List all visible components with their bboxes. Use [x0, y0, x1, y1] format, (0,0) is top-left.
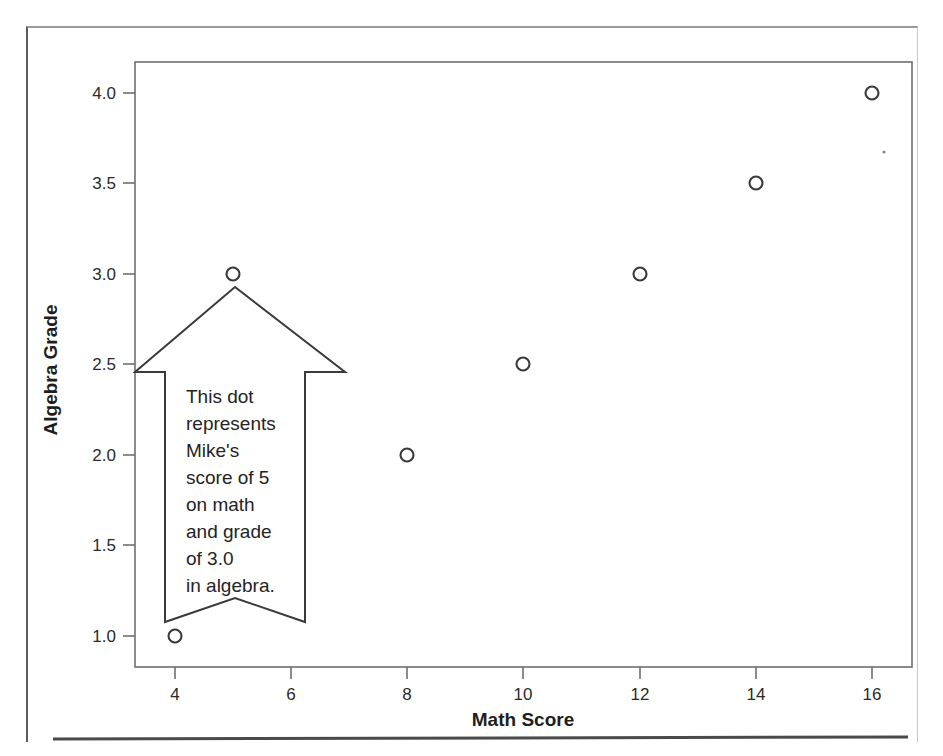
y-tick-label-3.5: 3.5 — [92, 174, 116, 193]
x-axis-tick-labels: 4 6 8 10 12 14 16 — [170, 685, 881, 704]
y-tick-label-2.0: 2.0 — [92, 446, 116, 465]
data-point-marker-mike — [227, 268, 240, 281]
callout-line-5: on math — [186, 494, 255, 515]
callout-line-4: score of 5 — [186, 467, 269, 488]
data-point-marker — [517, 358, 530, 371]
callout-line-8: in algebra. — [186, 575, 275, 596]
callout-line-1: This dot — [186, 386, 254, 407]
y-axis-ticks — [123, 93, 135, 636]
figure-page: 4.0 3.5 3.0 2.5 2.0 1.5 1.0 Algebra Grad… — [0, 0, 943, 756]
x-axis-ticks — [175, 667, 872, 679]
data-point-marker — [401, 449, 414, 462]
y-tick-label-4.0: 4.0 — [92, 84, 116, 103]
data-point-marker — [750, 177, 763, 190]
x-tick-label-12: 12 — [631, 685, 650, 704]
data-point-marker — [866, 87, 879, 100]
scatter-plot-figure: 4.0 3.5 3.0 2.5 2.0 1.5 1.0 Algebra Grad… — [0, 0, 943, 756]
x-tick-label-10: 10 — [514, 685, 533, 704]
y-tick-label-1.0: 1.0 — [92, 627, 116, 646]
callout-line-6: and grade — [186, 521, 272, 542]
x-tick-label-16: 16 — [863, 685, 882, 704]
callout-line-2: represents — [186, 413, 276, 434]
scan-speck — [882, 150, 885, 153]
x-axis-title: Math Score — [472, 709, 574, 730]
callout-line-7: of 3.0 — [186, 548, 234, 569]
y-tick-label-2.5: 2.5 — [92, 355, 116, 374]
x-tick-label-8: 8 — [402, 685, 411, 704]
x-tick-label-4: 4 — [170, 685, 179, 704]
bottom-rule — [53, 737, 908, 739]
y-tick-label-3.0: 3.0 — [92, 265, 116, 284]
y-tick-label-1.5: 1.5 — [92, 536, 116, 555]
data-point-marker — [634, 268, 647, 281]
y-axis-title: Algebra Grade — [40, 305, 61, 436]
y-axis-tick-labels: 4.0 3.5 3.0 2.5 2.0 1.5 1.0 — [92, 84, 116, 646]
data-point-marker — [169, 630, 182, 643]
callout-line-3: Mike's — [186, 440, 239, 461]
callout-arrow-shape — [135, 287, 345, 622]
x-tick-label-6: 6 — [286, 685, 295, 704]
x-tick-label-14: 14 — [747, 685, 766, 704]
